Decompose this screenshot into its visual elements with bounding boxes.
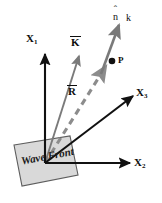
point-p-label: P — [118, 56, 124, 65]
axis-label-x3: X3 — [136, 87, 147, 98]
axis-label-x2-subscript: 2 — [142, 162, 146, 170]
n-hat-wrapper: ˆn — [113, 12, 118, 22]
axis-label-x1-subscript: 1 — [34, 38, 38, 46]
point-p-dot — [109, 58, 116, 65]
axis-label-x2-text: X — [134, 156, 142, 168]
wave-number-label: k — [126, 13, 131, 23]
vector-label-r: R — [68, 85, 76, 97]
diagram-canvas — [0, 0, 162, 203]
wave-front-diagram: X1 X2 X3 K R ˆn k P Wave Front — [0, 0, 162, 203]
axis-label-x3-subscript: 3 — [144, 92, 148, 100]
vector-label-k-text: K — [71, 36, 80, 48]
axis-label-x2: X2 — [134, 157, 145, 168]
axis-label-x1-text: X — [26, 32, 34, 44]
hat-accent-icon: ˆ — [114, 5, 117, 15]
vector-label-n-hat: ˆn — [113, 12, 118, 22]
axis-label-x1: X1 — [26, 33, 37, 44]
vector-label-r-text: R — [68, 85, 76, 97]
n-hat-vector-line — [101, 25, 119, 74]
vector-label-k: K — [71, 36, 80, 48]
axis-label-x3-text: X — [136, 86, 144, 98]
